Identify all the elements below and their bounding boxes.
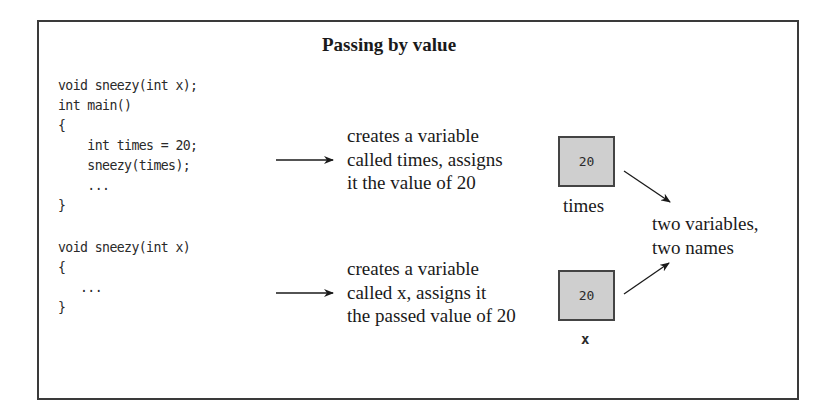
arrow-diagonal-icon (624, 263, 669, 294)
arrows-layer (0, 0, 832, 418)
arrow-diagonal-icon (624, 171, 670, 202)
